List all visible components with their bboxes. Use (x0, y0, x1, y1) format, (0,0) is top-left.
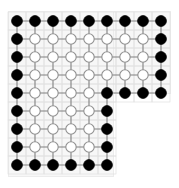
boundary-node (12, 34, 23, 45)
interior-node (66, 70, 76, 80)
interior-node (120, 70, 130, 80)
interior-node (66, 52, 76, 62)
boundary-node (120, 88, 131, 99)
boundary-node (102, 124, 113, 135)
interior-node (138, 52, 148, 62)
interior-node (30, 34, 40, 44)
interior-node (48, 142, 58, 152)
interior-node (84, 34, 94, 44)
interior-node (30, 70, 40, 80)
interior-node (66, 124, 76, 134)
boundary-node (156, 70, 167, 81)
lattice-figure (0, 0, 179, 188)
interior-node (48, 34, 58, 44)
boundary-node (156, 34, 167, 45)
interior-node (30, 52, 40, 62)
interior-node (66, 34, 76, 44)
boundary-node (12, 106, 23, 117)
interior-node (84, 142, 94, 152)
boundary-node (138, 16, 149, 27)
boundary-node (48, 16, 59, 27)
interior-node (138, 70, 148, 80)
boundary-node (66, 160, 77, 171)
boundary-node (12, 16, 23, 27)
interior-node (48, 106, 58, 116)
boundary-node (12, 160, 23, 171)
interior-node (138, 34, 148, 44)
lattice-node-layer (12, 16, 167, 171)
interior-node (120, 52, 130, 62)
interior-node (30, 106, 40, 116)
boundary-node (138, 88, 149, 99)
boundary-node (102, 88, 113, 99)
boundary-node (102, 142, 113, 153)
lattice-graph-svg (0, 0, 179, 188)
interior-node (84, 70, 94, 80)
interior-node (84, 88, 94, 98)
interior-node (48, 52, 58, 62)
boundary-node (12, 142, 23, 153)
interior-node (66, 88, 76, 98)
interior-node (84, 124, 94, 134)
boundary-node (48, 160, 59, 171)
interior-node (84, 52, 94, 62)
boundary-node (12, 124, 23, 135)
interior-node (102, 70, 112, 80)
interior-node (48, 88, 58, 98)
interior-node (84, 106, 94, 116)
interior-node (66, 142, 76, 152)
interior-node (30, 88, 40, 98)
interior-node (48, 70, 58, 80)
boundary-node (12, 88, 23, 99)
interior-node (102, 34, 112, 44)
interior-node (120, 34, 130, 44)
boundary-node (84, 160, 95, 171)
boundary-node (156, 16, 167, 27)
boundary-node (102, 106, 113, 117)
interior-node (66, 106, 76, 116)
interior-node (30, 142, 40, 152)
boundary-node (30, 16, 41, 27)
boundary-node (12, 70, 23, 81)
boundary-node (102, 160, 113, 171)
boundary-node (30, 160, 41, 171)
boundary-node (12, 52, 23, 63)
boundary-node (120, 16, 131, 27)
boundary-node (156, 88, 167, 99)
boundary-node (156, 52, 167, 63)
boundary-node (84, 16, 95, 27)
boundary-node (102, 16, 113, 27)
interior-node (30, 124, 40, 134)
interior-node (48, 124, 58, 134)
interior-node (102, 52, 112, 62)
boundary-node (66, 16, 77, 27)
